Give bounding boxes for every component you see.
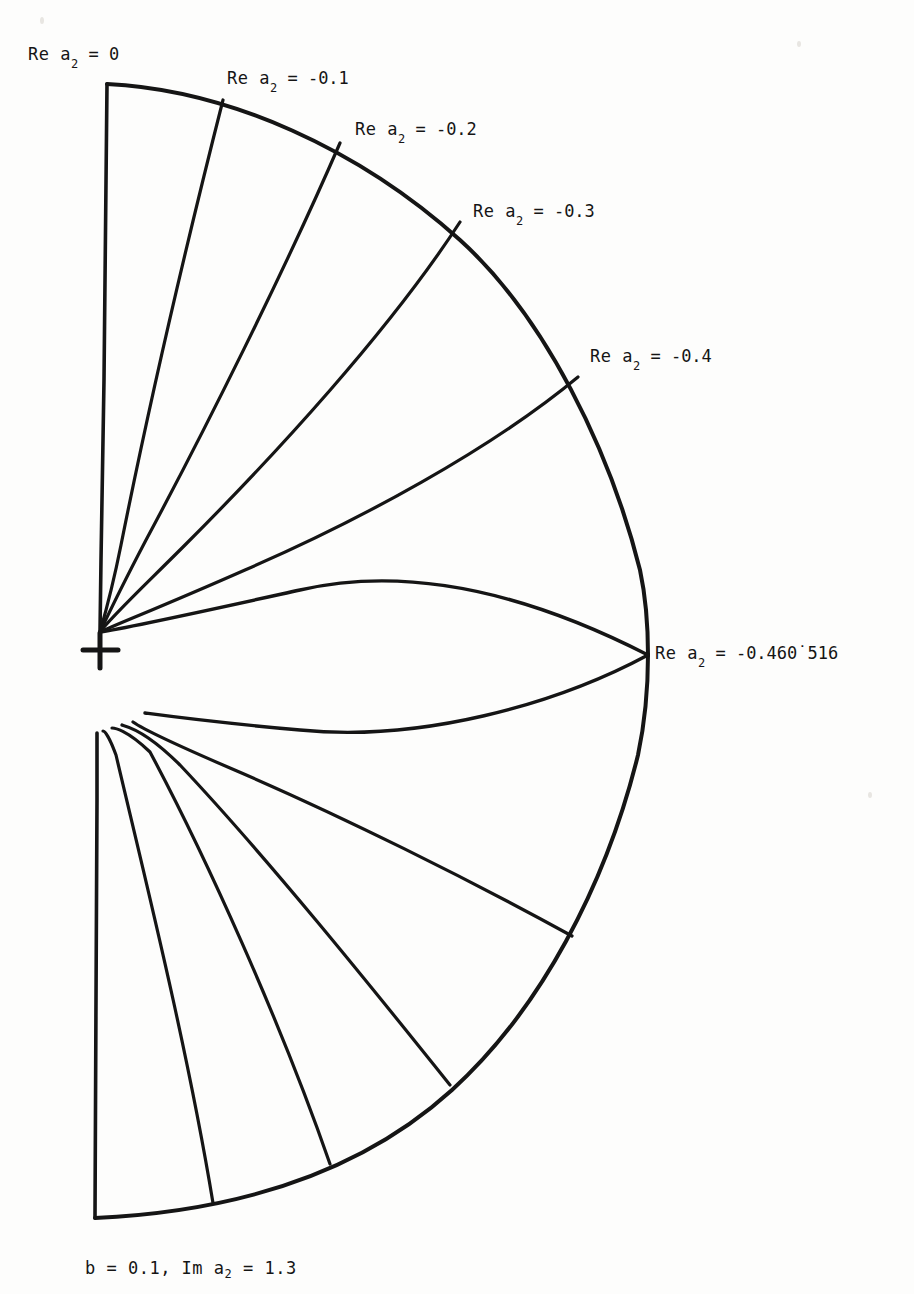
curve-re-a2-m01-upper	[100, 100, 223, 632]
label-re-a2-m01-suffix: = -0.1	[277, 68, 349, 88]
plus-marker-icon	[83, 633, 118, 668]
label-re-a2-m03-suffix: = -0.3	[523, 201, 595, 221]
curve-re-a2-0-lower	[95, 733, 97, 1218]
label-re-a2-extreme-subscript: 2	[698, 656, 705, 670]
label-re-a2-0-suffix: = 0	[78, 44, 119, 64]
scan-speck	[40, 17, 44, 24]
curve-re-a2-m04-lower	[133, 722, 572, 936]
label-re-a2-0: Re a2 = 0	[28, 46, 119, 66]
curve-re-a2-m04-upper	[100, 377, 578, 632]
label-re-a2-m01: Re a2 = -0.1	[227, 70, 349, 90]
curve-re-a2-extreme-upper	[100, 581, 648, 655]
curve-re-a2-m03-lower	[122, 725, 450, 1085]
label-re-a2-extreme-suffix: = -0.460˙516	[705, 643, 838, 663]
label-re-a2-m01-subscript: 2	[270, 81, 277, 95]
outer-arc-upper	[107, 84, 648, 655]
label-re-a2-m04-prefix: Re a	[590, 346, 633, 366]
label-re-a2-extreme-prefix: Re a	[655, 643, 698, 663]
scan-speck	[797, 41, 801, 47]
label-re-a2-m02-prefix: Re a	[355, 119, 398, 139]
label-re-a2-0-prefix: Re a	[28, 44, 71, 64]
label-re-a2-m04-suffix: = -0.4	[640, 346, 712, 366]
label-re-a2-m04-subscript: 2	[633, 359, 640, 373]
caption-suffix: = 1.3	[232, 1258, 296, 1278]
label-re-a2-m02-subscript: 2	[398, 132, 405, 146]
scan-speck	[868, 792, 872, 798]
label-re-a2-m03: Re a2 = -0.3	[473, 203, 595, 223]
label-re-a2-m03-subscript: 2	[516, 214, 523, 228]
curve-re-a2-m03-upper	[100, 222, 460, 632]
outer-arc-lower	[95, 655, 648, 1218]
curve-re-a2-m02-lower	[112, 728, 330, 1164]
curve-re-a2-m02-upper	[100, 143, 340, 632]
curve-re-a2-0-upper	[100, 84, 107, 632]
label-re-a2-m01-prefix: Re a	[227, 68, 270, 88]
figure-canvas: Re a2 = 0 Re a2 = -0.1 Re a2 = -0.2 Re a…	[0, 0, 914, 1294]
label-re-a2-m04: Re a2 = -0.4	[590, 348, 712, 368]
label-re-a2-0-subscript: 2	[71, 57, 78, 71]
caption-subscript: 2	[225, 1267, 233, 1281]
caption-prefix: b = 0.1, Im a	[85, 1258, 225, 1278]
figure-caption: b = 0.1, Im a2 = 1.3	[85, 1258, 297, 1278]
label-re-a2-extreme: Re a2 = -0.460˙516	[655, 645, 838, 665]
curve-re-a2-m01-lower	[103, 731, 213, 1203]
label-re-a2-m02: Re a2 = -0.2	[355, 121, 477, 141]
curve-re-a2-extreme-lower	[145, 655, 648, 732]
label-re-a2-m02-suffix: = -0.2	[405, 119, 477, 139]
label-re-a2-m03-prefix: Re a	[473, 201, 516, 221]
